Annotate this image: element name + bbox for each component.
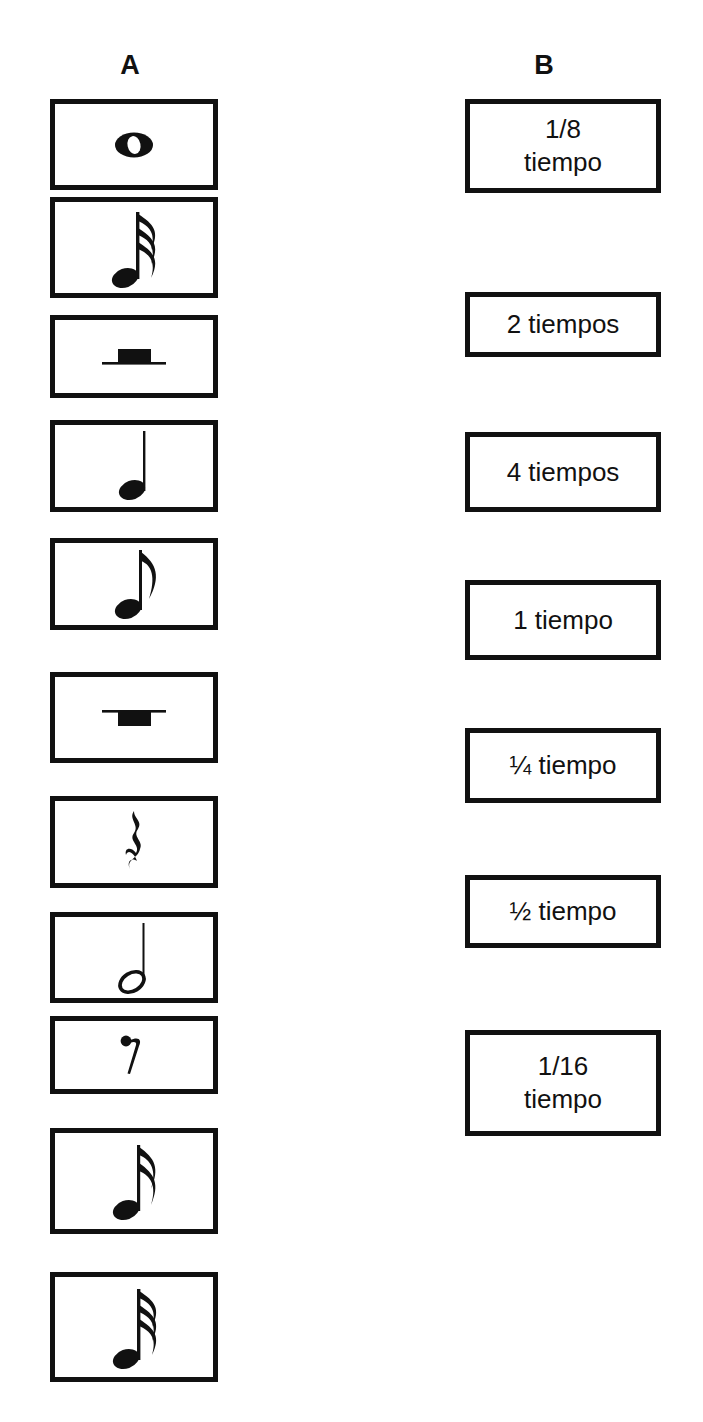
card-a-11[interactable] <box>50 1272 218 1382</box>
whole-note-icon <box>55 104 213 185</box>
card-b-2[interactable]: 2 tiempos <box>465 292 661 357</box>
card-b-1-label: 1/8 tiempo <box>524 113 602 179</box>
card-a-10[interactable] <box>50 1128 218 1234</box>
half-rest-icon <box>55 320 213 393</box>
whole-rest-icon <box>55 677 213 758</box>
card-a-1[interactable] <box>50 99 218 190</box>
sixteenth-note-icon <box>58 1135 216 1231</box>
card-a-2[interactable] <box>50 197 218 298</box>
quarter-rest-icon <box>55 801 213 883</box>
card-b-7-label: 1/16 tiempo <box>524 1050 602 1116</box>
card-a-8[interactable] <box>50 912 218 1003</box>
thirty-second-note-icon <box>59 1279 217 1379</box>
card-b-4[interactable]: 1 tiempo <box>465 580 661 660</box>
card-b-5-label: ¼ tiempo <box>510 749 617 782</box>
card-b-6[interactable]: ½ tiempo <box>465 875 661 948</box>
card-b-6-label: ½ tiempo <box>510 895 617 928</box>
card-a-5[interactable] <box>50 538 218 630</box>
card-a-9[interactable] <box>50 1016 218 1094</box>
card-a-3[interactable] <box>50 315 218 398</box>
card-b-1[interactable]: 1/8 tiempo <box>465 99 661 193</box>
card-b-5[interactable]: ¼ tiempo <box>465 728 661 803</box>
card-a-4[interactable] <box>50 420 218 512</box>
thirty-second-note-icon <box>58 204 216 295</box>
card-b-2-label: 2 tiempos <box>507 308 620 341</box>
card-a-7[interactable] <box>50 796 218 888</box>
card-b-7[interactable]: 1/16 tiempo <box>465 1030 661 1136</box>
column-a-header: A <box>94 52 166 79</box>
half-note-icon <box>57 917 215 998</box>
quarter-note-icon <box>57 425 215 507</box>
eighth-rest-icon <box>55 1021 213 1089</box>
worksheet-canvas: A B <box>0 0 703 1422</box>
card-b-4-label: 1 tiempo <box>513 604 613 637</box>
card-b-3-label: 4 tiempos <box>507 456 620 489</box>
card-a-6[interactable] <box>50 672 218 763</box>
eighth-note-icon <box>58 544 216 626</box>
column-b-header: B <box>508 52 580 79</box>
card-b-3[interactable]: 4 tiempos <box>465 432 661 512</box>
